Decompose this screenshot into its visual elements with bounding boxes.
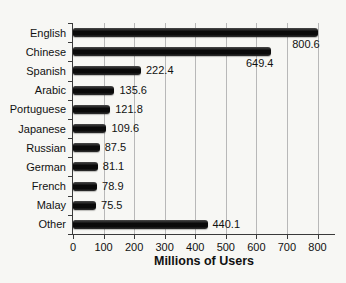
category-label: Other xyxy=(0,217,66,231)
gridline xyxy=(287,23,288,234)
x-tick-label: 800 xyxy=(300,241,336,253)
bar xyxy=(73,124,106,133)
bar xyxy=(73,105,110,114)
category-label: French xyxy=(0,179,66,193)
y-tick-mark xyxy=(68,100,72,101)
bar xyxy=(73,47,271,56)
x-axis-title: Millions of Users xyxy=(73,254,335,268)
category-label: Spanish xyxy=(0,64,66,78)
bar-value-label: 222.4 xyxy=(146,64,174,77)
bar-value-label: 649.4 xyxy=(213,57,273,70)
bar-value-label: 121.8 xyxy=(115,103,143,116)
y-tick-mark xyxy=(68,138,72,139)
bar xyxy=(73,143,100,152)
bar xyxy=(73,66,141,75)
x-tick-mark xyxy=(165,235,166,239)
bar xyxy=(73,220,208,229)
x-tick-mark xyxy=(318,235,319,239)
y-tick-mark xyxy=(68,196,72,197)
y-tick-mark xyxy=(68,61,72,62)
bar xyxy=(73,28,318,37)
bar xyxy=(73,201,96,210)
category-label: Portuguese xyxy=(0,102,66,116)
bar xyxy=(73,162,98,171)
bar-chart: English800.6Chinese649.4Spanish222.4Arab… xyxy=(0,0,346,283)
bar-value-label: 75.5 xyxy=(101,199,122,212)
category-label: German xyxy=(0,160,66,174)
bar-value-label: 81.1 xyxy=(103,160,124,173)
bar-value-label: 78.9 xyxy=(102,180,123,193)
gridline xyxy=(318,23,319,234)
category-label: Japanese xyxy=(0,122,66,136)
y-tick-mark xyxy=(68,234,72,235)
category-label: Chinese xyxy=(0,45,66,59)
x-tick-mark xyxy=(256,235,257,239)
x-tick-mark xyxy=(73,235,74,239)
bar-value-label: 109.6 xyxy=(111,122,139,135)
y-tick-mark xyxy=(68,176,72,177)
y-tick-mark xyxy=(68,42,72,43)
y-tick-mark xyxy=(68,215,72,216)
category-label: Arabic xyxy=(0,83,66,97)
y-tick-mark xyxy=(68,81,72,82)
bar xyxy=(73,86,114,95)
category-label: English xyxy=(0,26,66,40)
y-tick-mark xyxy=(68,119,72,120)
x-tick-mark xyxy=(134,235,135,239)
bar-value-label: 135.6 xyxy=(119,84,147,97)
x-tick-mark xyxy=(195,235,196,239)
bar xyxy=(73,182,97,191)
bar-value-label: 440.1 xyxy=(213,218,241,231)
y-tick-mark xyxy=(68,23,72,24)
bar-value-label: 87.5 xyxy=(105,141,126,154)
y-tick-mark xyxy=(68,157,72,158)
category-label: Malay xyxy=(0,198,66,212)
x-tick-mark xyxy=(226,235,227,239)
x-tick-mark xyxy=(104,235,105,239)
category-label: Russian xyxy=(0,141,66,155)
x-tick-mark xyxy=(287,235,288,239)
x-axis-line xyxy=(72,234,335,235)
